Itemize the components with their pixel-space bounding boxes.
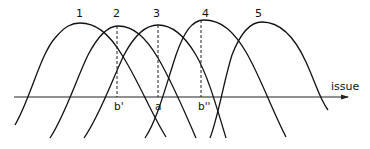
curve-3 — [84, 25, 226, 138]
point-label-b-double-prime: b'' — [198, 100, 210, 112]
point-label-b-prime: b' — [114, 100, 124, 112]
point-label-a: a — [155, 100, 161, 112]
curve-label-2: 2 — [113, 7, 120, 20]
axis-label-issue: issue — [331, 80, 359, 93]
axis-arrow-icon — [341, 95, 349, 100]
curve-label-1: 1 — [76, 7, 83, 20]
curve-5 — [210, 22, 328, 138]
curve-1 — [15, 23, 166, 137]
preference-curves-diagram: issue 1 2 3 4 5 b' a b'' — [0, 0, 370, 149]
curve-label-5: 5 — [255, 7, 262, 20]
curve-label-4: 4 — [202, 7, 209, 20]
curve-2 — [50, 26, 196, 138]
curve-label-3: 3 — [153, 7, 160, 20]
